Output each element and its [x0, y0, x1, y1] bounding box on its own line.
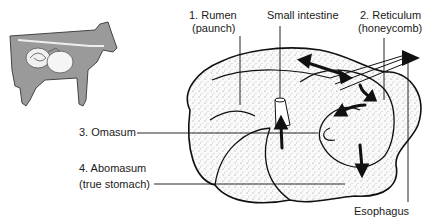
label-abomasum: 4. Abomasum (true stomach) [79, 160, 150, 192]
label-small-intestine: Small intestine [267, 9, 339, 22]
esophagus-name: Esophagus [354, 205, 409, 218]
small-intestine-name: Small intestine [267, 9, 339, 22]
rumen-name: 1. Rumen [189, 9, 237, 22]
stomach-illustration [137, 26, 421, 203]
label-esophagus: Esophagus [354, 205, 409, 218]
omasum-name: 3. Omasum [79, 126, 136, 139]
rumen-alias: (paunch) [192, 22, 237, 35]
abomasum-alias: (true stomach) [79, 176, 150, 192]
reticulum-alias: (honeycomb) [358, 22, 422, 35]
label-reticulum: 2. Reticulum (honeycomb) [358, 9, 422, 35]
abomasum-name: 4. Abomasum [79, 160, 150, 176]
reticulum-name: 2. Reticulum [360, 9, 422, 22]
label-rumen: 1. Rumen (paunch) [189, 9, 237, 35]
cow-inset [10, 22, 117, 106]
label-omasum: 3. Omasum [79, 126, 136, 139]
